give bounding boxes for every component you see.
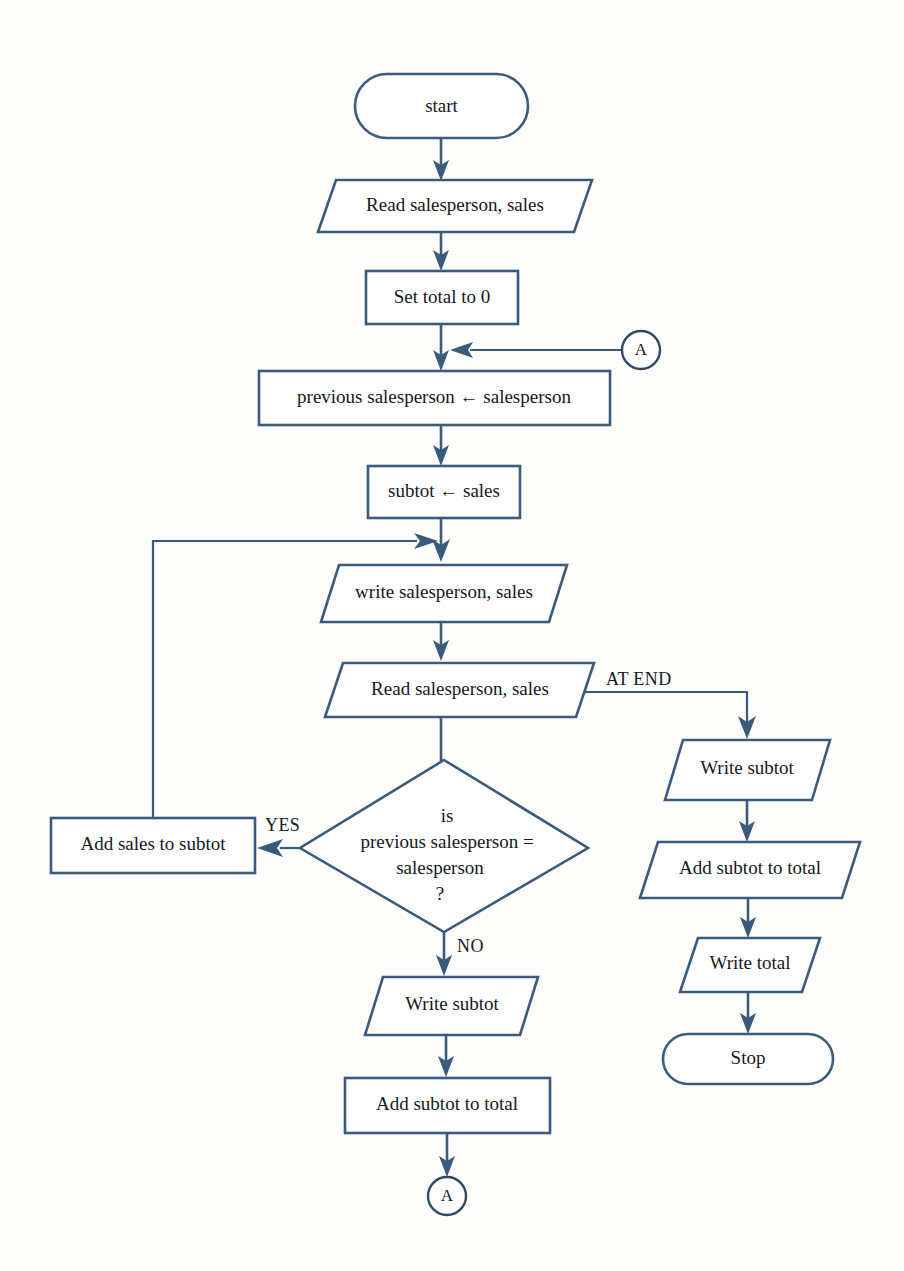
node-decision-line-3: salesperson xyxy=(396,857,484,878)
node-write-subtot-end[interactable]: Write subtot xyxy=(665,740,830,800)
edge-write-total-to-stop xyxy=(740,992,756,1034)
node-decision[interactable]: is previous salesperson = salesperson ? xyxy=(300,760,588,932)
connector-a-in-label: A xyxy=(635,340,648,359)
node-add-sales[interactable]: Add sales to subtot xyxy=(51,818,255,873)
node-stop[interactable]: Stop xyxy=(663,1034,833,1084)
edge-decision-no xyxy=(436,932,452,976)
edge-label-yes: YES xyxy=(265,815,300,835)
edge-at-end-branch xyxy=(576,692,756,739)
node-decision-line-2: previous salesperson = xyxy=(360,831,533,852)
node-add-subtot-end[interactable]: Add subtot to total xyxy=(640,842,860,898)
connector-a-in[interactable]: A xyxy=(622,331,660,369)
edge-prev-assign-to-subtot-assign xyxy=(433,425,449,466)
node-add-subtot-end-label: Add subtot to total xyxy=(679,857,821,878)
edge-read-first-to-set-total xyxy=(433,232,449,271)
edge-set-total-to-prev-assign xyxy=(433,324,449,371)
node-write-total-end[interactable]: Write total xyxy=(680,938,820,992)
node-prev-assign[interactable]: previous salesperson ← salesperson xyxy=(259,371,610,425)
node-write-subtot-no[interactable]: Write subtot xyxy=(365,977,538,1035)
node-start[interactable]: start xyxy=(355,74,528,138)
edge-add-subtot-no-to-connector-a xyxy=(439,1133,455,1177)
node-stop-label: Stop xyxy=(731,1047,766,1068)
flowchart-svg: start Read salesperson, sales Set total … xyxy=(0,0,904,1271)
node-read-next[interactable]: Read salesperson, sales xyxy=(325,663,594,717)
edge-connector-a-into-trunk xyxy=(450,342,622,358)
edge-write-subtot-end-to-add-subtot-end xyxy=(739,800,755,842)
node-write-subtot-no-label: Write subtot xyxy=(405,993,499,1014)
connector-a-out-label: A xyxy=(441,1186,454,1205)
node-prev-assign-label: previous salesperson ← salesperson xyxy=(297,386,571,407)
connector-a-out[interactable]: A xyxy=(428,1177,466,1215)
node-write-rec-label: write salesperson, sales xyxy=(355,581,533,602)
edge-write-subtot-no-to-add-subtot-no xyxy=(438,1035,454,1077)
node-set-total-label: Set total to 0 xyxy=(394,286,491,307)
node-add-subtot-no[interactable]: Add subtot to total xyxy=(345,1078,550,1133)
node-subtot-assign-label: subtot ← sales xyxy=(388,480,500,501)
node-decision-line-1: is xyxy=(441,805,454,826)
edge-write-rec-to-read-next xyxy=(433,622,449,661)
edge-add-subtot-end-to-write-total xyxy=(740,898,756,938)
edge-decision-yes xyxy=(257,839,300,857)
node-read-first-label: Read salesperson, sales xyxy=(366,194,544,215)
node-start-label: start xyxy=(425,95,458,116)
edge-label-at-end: AT END xyxy=(606,669,672,689)
node-write-total-end-label: Write total xyxy=(709,952,790,973)
edge-label-no: NO xyxy=(457,936,484,956)
node-write-subtot-end-label: Write subtot xyxy=(700,757,794,778)
flowchart-canvas: start Read salesperson, sales Set total … xyxy=(0,0,904,1271)
node-add-sales-label: Add sales to subtot xyxy=(80,833,226,854)
node-write-rec[interactable]: write salesperson, sales xyxy=(321,565,567,622)
node-add-subtot-no-label: Add subtot to total xyxy=(376,1093,518,1114)
node-read-first[interactable]: Read salesperson, sales xyxy=(318,180,592,232)
node-decision-line-4: ? xyxy=(436,883,444,904)
node-subtot-assign[interactable]: subtot ← sales xyxy=(368,466,520,518)
edge-start-to-read-first xyxy=(433,138,449,181)
node-read-next-label: Read salesperson, sales xyxy=(371,678,549,699)
node-set-total[interactable]: Set total to 0 xyxy=(366,271,518,324)
